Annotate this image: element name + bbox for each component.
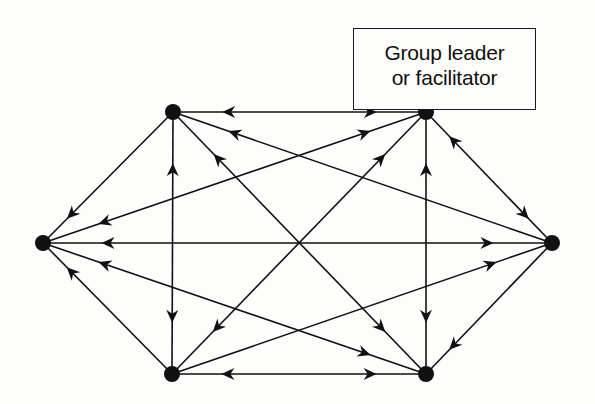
node-member-right: [544, 235, 560, 251]
edge-tr-r: [426, 112, 552, 243]
node-member-bottom-right: [418, 366, 434, 382]
node-member-bottom-left: [164, 366, 180, 382]
label-line-2: or facilitator: [392, 65, 498, 90]
node-member-top-left: [165, 104, 181, 120]
edges-layer: [43, 112, 552, 374]
group-leader-label-box: Group leader or facilitator: [353, 28, 536, 110]
label-line-1: Group leader: [384, 40, 504, 65]
node-member-left: [35, 235, 51, 251]
